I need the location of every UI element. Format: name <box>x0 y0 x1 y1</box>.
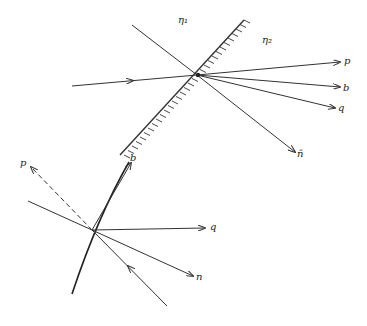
bottom-figure <box>28 162 205 306</box>
interface-line <box>120 20 244 155</box>
p-ray <box>197 62 340 75</box>
n-hat-label: n̂ <box>297 149 303 159</box>
incident-ray <box>72 75 197 86</box>
q-label-bottom: q <box>210 222 216 232</box>
n-ray-bottom <box>92 230 193 276</box>
incoming-line-left <box>28 201 92 230</box>
b-ray <box>197 75 340 87</box>
q-label-top: q <box>338 103 344 113</box>
diagram-canvas: η₁ η₂ p b q n̂ b p q n <box>0 0 367 326</box>
eta2-label: η₂ <box>262 35 272 45</box>
interface-hatching <box>124 20 250 158</box>
top-figure <box>72 20 340 158</box>
b-label-bottom: b <box>130 153 136 163</box>
n-label-bottom: n <box>196 272 202 282</box>
incident-ray-bottom <box>92 230 167 306</box>
normal-line <box>132 25 197 75</box>
p-ray-dashed <box>31 167 92 230</box>
p-label-top: p <box>344 56 350 66</box>
b-label-top: b <box>343 83 349 93</box>
p-label-bottom: p <box>20 158 26 168</box>
q-ray-bottom <box>92 228 205 230</box>
diagram-svg <box>0 0 367 326</box>
b-ray-bottom <box>92 163 131 230</box>
eta1-label: η₁ <box>178 15 188 25</box>
intersection-dot <box>196 73 200 77</box>
